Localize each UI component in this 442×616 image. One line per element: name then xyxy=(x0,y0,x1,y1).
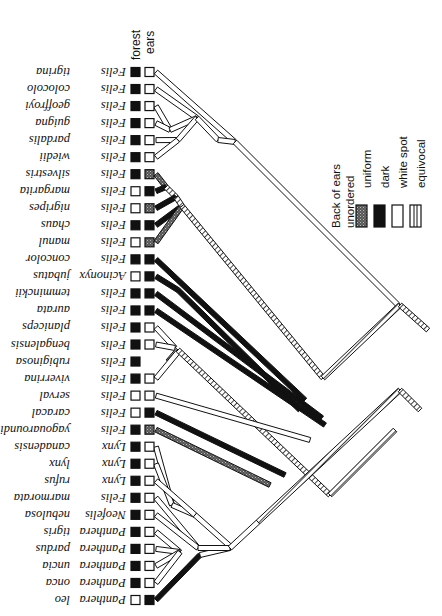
genus-name: Lynx xyxy=(70,456,126,472)
tree-branch xyxy=(155,195,177,211)
species-name: canadensis xyxy=(14,440,70,454)
ears-marker xyxy=(145,170,154,179)
ears-marker xyxy=(145,238,154,247)
taxon-label: Felischaus xyxy=(2,217,126,233)
tree-branch xyxy=(155,410,286,477)
forest-marker xyxy=(131,153,140,162)
taxon-label: Felisconcolor xyxy=(2,251,126,267)
species-name: silvestris xyxy=(26,167,70,181)
genus-name: Felis xyxy=(70,64,126,80)
taxon-label: Felisgeoffroyi xyxy=(2,98,126,114)
forest-marker xyxy=(131,374,140,383)
ears-marker xyxy=(145,408,154,417)
species-name: marmorata xyxy=(14,491,70,505)
species-name: nigripes xyxy=(29,201,70,215)
genus-name: Felis xyxy=(70,371,126,387)
taxon-label: Felistigrina xyxy=(2,64,126,80)
genus-name: Felis xyxy=(70,166,126,182)
tree-branch xyxy=(154,479,196,517)
taxon-label: Felismarmorata xyxy=(2,490,126,506)
legend-swatch-dark xyxy=(374,205,385,227)
species-name: yagouaroundi xyxy=(0,423,70,437)
forest-marker xyxy=(131,544,140,553)
tree-branch xyxy=(193,513,233,550)
species-name: rufus xyxy=(44,474,70,488)
legend-label-white-spot: white spot xyxy=(397,136,409,188)
tree-branch xyxy=(398,303,429,332)
ears-marker xyxy=(145,289,154,298)
species-name: serval xyxy=(39,389,70,403)
ears-marker xyxy=(145,527,154,536)
ears-marker xyxy=(145,136,154,145)
genus-name: Felis xyxy=(70,490,126,506)
forest-marker xyxy=(131,561,140,570)
genus-name: Felis xyxy=(70,388,126,404)
species-name: tigrina xyxy=(36,65,70,79)
genus-name: Felis xyxy=(70,337,126,353)
forest-marker xyxy=(131,306,140,315)
ears-marker xyxy=(145,578,154,587)
taxon-label: Felisplaniceps xyxy=(2,319,126,335)
legend-title: Back of ears xyxy=(330,164,342,228)
taxon-label: Neofelisnebulosa xyxy=(2,507,126,523)
forest-marker xyxy=(131,102,140,111)
ears-marker xyxy=(145,459,154,468)
taxon-label: Acinonyxjubatus xyxy=(2,268,126,284)
species-name: colocolo xyxy=(27,82,70,96)
genus-name: Lynx xyxy=(70,473,126,489)
forest-marker xyxy=(131,510,140,519)
tree-branch xyxy=(228,520,259,550)
species-name: geoffroyi xyxy=(25,99,70,113)
ears-marker xyxy=(145,510,154,519)
species-name: rubiginosa xyxy=(16,355,70,369)
species-name: viverrina xyxy=(24,372,70,386)
forest-marker xyxy=(131,391,140,400)
ears-marker xyxy=(145,187,154,196)
genus-name: Felis xyxy=(70,217,126,233)
genus-name: Felis xyxy=(70,319,126,335)
legend-subtitle: unordered xyxy=(344,176,356,228)
genus-name: Felis xyxy=(70,200,126,216)
species-name: concolor xyxy=(26,252,70,266)
species-name: pardus xyxy=(36,542,70,556)
taxon-label: Felisaurata xyxy=(2,302,126,318)
genus-name: Felis xyxy=(70,251,126,267)
forest-marker xyxy=(131,425,140,434)
forest-marker xyxy=(131,357,140,366)
taxon-label: Pantheraleo xyxy=(2,592,126,608)
taxon-label: Feliscaracal xyxy=(2,405,126,421)
species-name: uncia xyxy=(42,559,70,573)
genus-name: Neofelis xyxy=(70,507,126,523)
forest-marker xyxy=(131,408,140,417)
forest-marker xyxy=(131,204,140,213)
ears-marker xyxy=(145,596,154,605)
species-name: temminckii xyxy=(15,286,70,300)
forest-marker xyxy=(131,170,140,179)
legend xyxy=(356,205,421,227)
forest-marker xyxy=(131,238,140,247)
ears-marker xyxy=(145,493,154,502)
species-name: margarita xyxy=(20,184,70,198)
tree-branch xyxy=(328,428,397,497)
forest-marker xyxy=(131,289,140,298)
tree-branch xyxy=(321,303,401,380)
taxon-label: Pantherapardus xyxy=(2,541,126,557)
ears-marker xyxy=(145,476,154,485)
ears-marker xyxy=(145,442,154,451)
genus-name: Felis xyxy=(70,354,126,370)
genus-name: Panthera xyxy=(70,592,126,608)
phylogeny-figure: FelistigrinaFeliscolocoloFelisgeoffroyiF… xyxy=(0,0,442,616)
species-name: bengalensis xyxy=(11,338,70,352)
taxon-label: Feliscolocolo xyxy=(2,81,126,97)
genus-name: Felis xyxy=(70,81,126,97)
ears-marker xyxy=(145,204,154,213)
ears-marker xyxy=(145,153,154,162)
legend-label-equivocal: equivocal xyxy=(415,139,427,188)
taxon-label: Felisrubiginosa xyxy=(2,354,126,370)
species-name: nebulosa xyxy=(25,508,70,522)
genus-name: Felis xyxy=(70,285,126,301)
forest-marker xyxy=(131,187,140,196)
genus-name: Felis xyxy=(70,132,126,148)
species-name: planiceps xyxy=(22,320,70,334)
forest-marker xyxy=(131,578,140,587)
